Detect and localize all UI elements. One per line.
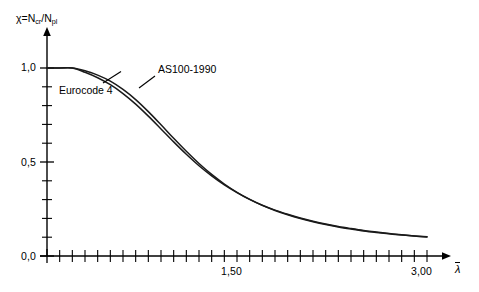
y-axis-title-sub-pl: pl <box>52 17 58 26</box>
curve-annotation-eurocode-4: Eurocode 4 <box>59 85 113 96</box>
y-tick-label-0: 0,0 <box>21 251 36 262</box>
y-tick-label-0-5: 0,5 <box>21 157 36 168</box>
y-axis-title: χ=Ncr/Npl <box>16 13 57 24</box>
curve-annotation-as100-1990: AS100-1990 <box>158 64 216 75</box>
y-axis-title-main: χ=N <box>16 12 35 24</box>
chart-figure: χ=Ncr/Npl λ 1,0 0,5 0,0 1,50 3,00 Euroco… <box>0 0 479 292</box>
x-tick-label-1-50: 1,50 <box>221 266 242 277</box>
x-axis-title: λ <box>455 264 460 275</box>
y-axis-title-sep: /N <box>41 12 52 24</box>
y-axis <box>43 27 51 256</box>
chart-canvas <box>0 0 479 292</box>
leader-line-as100 <box>139 76 155 88</box>
x-tick-label-3-00: 3,00 <box>411 266 432 277</box>
y-tick-label-1: 1,0 <box>21 62 36 73</box>
x-axis-title-lambda: λ <box>455 264 460 275</box>
y-axis-title-sub-cr: cr <box>35 17 41 26</box>
